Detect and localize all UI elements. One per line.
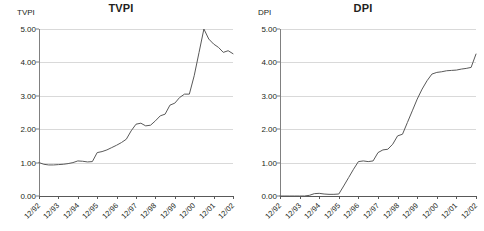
dpi-series (280, 29, 476, 196)
tvpi-chart-panel: TVPI TVPI 0.001.002.003.004.005.0012/921… (0, 0, 242, 231)
dpi-chart-panel: DPI DPI 0.001.002.003.004.005.0012/9212/… (242, 0, 484, 231)
tvpi-x-tick-mark (175, 196, 176, 199)
tvpi-x-tick-mark (194, 196, 195, 199)
tvpi-x-tick-mark (155, 196, 156, 199)
dpi-x-tick-mark (476, 196, 477, 199)
dpi-x-tick-mark (319, 196, 320, 199)
tvpi-x-tick-mark (39, 196, 40, 199)
tvpi-x-tick-mark (97, 196, 98, 199)
dpi-y-axis-label: DPI (258, 8, 271, 17)
dpi-plot-area: 0.001.002.003.004.005.0012/9212/9312/941… (280, 29, 476, 196)
dpi-y-tick-label: 3.00 (261, 91, 277, 100)
tvpi-x-tick-mark (117, 196, 118, 199)
dpi-x-tick-mark (437, 196, 438, 199)
dpi-x-tick-mark (339, 196, 340, 199)
dpi-y-tick-label: 0.00 (261, 192, 277, 201)
tvpi-y-tick-label: 1.00 (20, 158, 36, 167)
dpi-x-tick-mark (398, 196, 399, 199)
dpi-y-tick-label: 4.00 (261, 58, 277, 67)
tvpi-y-axis-label: TVPI (17, 8, 35, 17)
dpi-y-tick-label: 5.00 (261, 25, 277, 34)
tvpi-y-tick-label: 5.00 (20, 25, 36, 34)
dpi-y-tick-label: 2.00 (261, 125, 277, 134)
tvpi-series (39, 29, 233, 196)
tvpi-x-tick-mark (233, 196, 234, 199)
tvpi-x-tick-mark (78, 196, 79, 199)
tvpi-y-tick-label: 3.00 (20, 91, 36, 100)
dpi-y-tick-label: 1.00 (261, 158, 277, 167)
tvpi-plot-area: 0.001.002.003.004.005.0012/9212/9312/941… (39, 29, 233, 196)
tvpi-y-tick-label: 4.00 (20, 58, 36, 67)
tvpi-line (39, 29, 233, 165)
tvpi-x-tick-mark (136, 196, 137, 199)
dpi-x-tick-mark (358, 196, 359, 199)
dpi-x-tick-mark (378, 196, 379, 199)
tvpi-y-tick-label: 2.00 (20, 125, 36, 134)
tvpi-y-tick-label: 0.00 (20, 192, 36, 201)
tvpi-chart-title: TVPI (0, 2, 242, 14)
dpi-line (280, 54, 476, 196)
tvpi-x-tick-mark (214, 196, 215, 199)
dpi-x-tick-mark (456, 196, 457, 199)
tvpi-x-tick-mark (58, 196, 59, 199)
dpi-chart-title: DPI (242, 2, 484, 14)
dpi-x-tick-mark (417, 196, 418, 199)
